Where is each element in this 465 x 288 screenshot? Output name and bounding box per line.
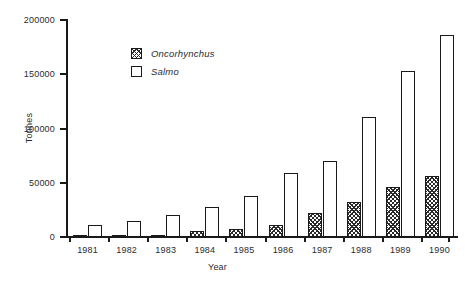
- x-axis-tick-label: 1984: [185, 245, 225, 255]
- x-axis-tick-label: 1989: [380, 245, 420, 255]
- bar-salmo-1987: [323, 161, 337, 237]
- x-axis-tick-label: 1981: [68, 245, 108, 255]
- bar-oncorhynchus-1985: [229, 229, 243, 237]
- bar-oncorhynchus-1987: [308, 213, 322, 237]
- x-axis-tick: [343, 237, 345, 242]
- chart-legend: Oncorhynchus Salmo: [131, 44, 215, 80]
- legend-item-label: Oncorhynchus: [151, 48, 215, 59]
- x-axis-tick-label: 1982: [107, 245, 147, 255]
- bar-group: [73, 20, 102, 237]
- x-axis-tick: [225, 237, 227, 242]
- x-axis-tick: [69, 237, 71, 242]
- y-axis-tick: 100000: [60, 128, 67, 130]
- chart-figure: Tonnes Year 050000100000150000200000 198…: [0, 0, 465, 288]
- y-axis-tick-label: 50000: [29, 178, 55, 188]
- x-axis-title: Year: [0, 262, 465, 272]
- x-axis-tick-label: 1986: [263, 245, 303, 255]
- y-axis-tick-label: 0: [50, 232, 55, 242]
- x-axis-tick: [147, 237, 149, 242]
- legend-item-oncorhynchus: Oncorhynchus: [131, 44, 215, 62]
- bar-salmo-1981: [88, 225, 102, 237]
- bar-group: [269, 20, 298, 237]
- bar-oncorhynchus-1989: [386, 187, 400, 237]
- y-axis-tick: 150000: [60, 73, 67, 75]
- empty-square-icon: [131, 66, 142, 77]
- bar-oncorhynchus-1986: [269, 225, 283, 237]
- bar-group: [386, 20, 415, 237]
- x-axis-tick: [108, 237, 110, 242]
- x-axis-end-tick: [448, 237, 450, 242]
- legend-item-salmo: Salmo: [131, 62, 215, 80]
- x-axis-title-text: Year: [208, 262, 227, 272]
- x-axis-tick: [186, 237, 188, 242]
- x-axis-tick-label: 1988: [341, 245, 381, 255]
- y-axis-tick: 50000: [60, 182, 67, 184]
- legend-item-label: Salmo: [151, 66, 179, 77]
- bar-salmo-1988: [362, 117, 376, 237]
- bar-salmo-1982: [127, 221, 141, 237]
- hatched-square-icon: [131, 48, 142, 59]
- y-axis-tick-label: 100000: [24, 124, 55, 134]
- bar-group: [347, 20, 376, 237]
- bar-oncorhynchus-1983: [151, 235, 165, 237]
- bar-salmo-1983: [166, 215, 180, 237]
- bar-salmo-1984: [205, 207, 219, 237]
- bar-salmo-1989: [401, 71, 415, 237]
- plot-area: [67, 20, 458, 237]
- y-axis-tick: 200000: [60, 19, 67, 21]
- x-axis-tick: [265, 237, 267, 242]
- y-axis-tick-label: 150000: [24, 69, 55, 79]
- x-axis-tick-label: 1983: [146, 245, 186, 255]
- x-axis-tick-label: 1985: [224, 245, 264, 255]
- bar-group: [229, 20, 258, 237]
- bar-oncorhynchus-1982: [112, 235, 126, 237]
- bar-oncorhynchus-1984: [190, 231, 204, 237]
- x-axis-tick: [304, 237, 306, 242]
- bar-oncorhynchus-1988: [347, 202, 361, 237]
- bar-salmo-1986: [284, 173, 298, 237]
- bar-salmo-1990: [440, 35, 454, 237]
- x-axis-tick-label: 1990: [419, 245, 459, 255]
- x-axis-tick: [421, 237, 423, 242]
- y-axis-tick: 0: [60, 236, 67, 238]
- bar-salmo-1985: [244, 196, 258, 237]
- bar-group: [425, 20, 454, 237]
- x-axis-tick-label: 1987: [302, 245, 342, 255]
- bar-oncorhynchus-1990: [425, 176, 439, 237]
- bar-group: [308, 20, 337, 237]
- bar-oncorhynchus-1981: [73, 235, 87, 237]
- y-axis-tick-label: 200000: [24, 15, 55, 25]
- x-axis-tick: [382, 237, 384, 242]
